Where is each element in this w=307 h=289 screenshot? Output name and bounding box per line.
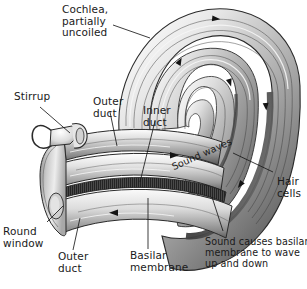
label-basilar-membrane: Basilar membrane bbox=[130, 250, 188, 273]
label-hair-cells: Hair cells bbox=[277, 176, 301, 199]
label-stirrup: Stirrup bbox=[14, 91, 50, 103]
label-sound-causes-basilar: Sound causes basilar membrane to wave up… bbox=[205, 236, 307, 269]
label-outer-duct-bottom: Outer duct bbox=[58, 251, 88, 274]
stirrup-bone bbox=[32, 123, 87, 148]
label-outer-duct-top: Outer duct bbox=[93, 96, 123, 119]
cochlea-diagram: Cochlea, partially uncoiled Stirrup Oute… bbox=[0, 0, 307, 289]
label-cochlea-uncoiled: Cochlea, partially uncoiled bbox=[62, 4, 108, 39]
cochlear-tube bbox=[40, 129, 232, 238]
label-round-window: Round window bbox=[3, 226, 43, 249]
label-inner-duct: Inner duct bbox=[143, 105, 171, 128]
